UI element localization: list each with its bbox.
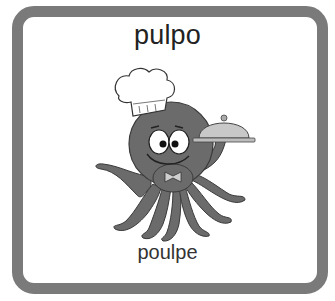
word-secondary: poulpe	[0, 241, 335, 264]
octopus-chef-icon	[81, 66, 261, 242]
word-primary: pulpo	[0, 20, 335, 51]
